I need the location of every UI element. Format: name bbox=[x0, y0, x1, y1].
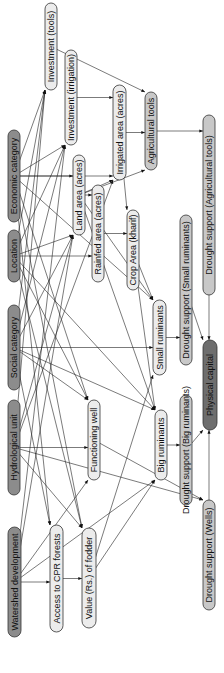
arrowhead-icon bbox=[84, 446, 88, 449]
arrowhead-icon bbox=[200, 336, 203, 340]
node-label: Land area (acres) bbox=[74, 159, 84, 230]
arrowhead-icon bbox=[78, 577, 82, 580]
node-fodder[interactable]: Value (Rs.) of fodder bbox=[82, 528, 96, 628]
node-label: Physical capital bbox=[205, 354, 215, 416]
arrowhead-icon bbox=[207, 336, 210, 340]
arrowhead-icon bbox=[141, 170, 145, 173]
node-label: Irrigated area (acres) bbox=[115, 90, 125, 174]
node-label: Economic category bbox=[9, 137, 19, 214]
node-location[interactable]: Location bbox=[8, 230, 20, 282]
node-label: Big ruminants bbox=[156, 417, 166, 473]
node-well[interactable]: Functioning well bbox=[88, 400, 100, 480]
node-label: Functioning well bbox=[89, 408, 99, 473]
node-label: Social category bbox=[9, 316, 19, 378]
arrowhead-icon bbox=[109, 96, 113, 99]
arrowhead-icon bbox=[109, 174, 113, 177]
nodes-layer: Economic categoryLocationSocial category… bbox=[8, 3, 217, 637]
arrowhead-icon bbox=[199, 129, 203, 132]
node-land[interactable]: Land area (acres) bbox=[73, 155, 85, 235]
node-label: Watershed development bbox=[10, 533, 20, 631]
node-hydro[interactable]: Hydrological unit bbox=[8, 400, 20, 495]
node-label: Drought support (Agricultural tools) bbox=[204, 135, 214, 275]
node-label: Agricultural tools bbox=[146, 97, 156, 164]
edge-watershed-to-land bbox=[15, 235, 74, 582]
arrowhead-icon bbox=[176, 443, 180, 446]
arrowhead-icon bbox=[149, 346, 153, 349]
node-inv_tools[interactable]: Investment (tools) bbox=[45, 3, 57, 90]
dependency-graph: Economic categoryLocationSocial category… bbox=[0, 0, 224, 673]
arrowhead-icon bbox=[207, 430, 210, 434]
node-label: Drought support (Wells) bbox=[204, 508, 214, 603]
node-small[interactable]: Small ruminants bbox=[153, 300, 166, 375]
node-label: Investment (tools) bbox=[46, 11, 56, 83]
node-rainfed[interactable]: Rainfed area (acres) bbox=[92, 185, 104, 282]
node-agtools[interactable]: Agricultural tools bbox=[145, 92, 157, 170]
arrowhead-icon bbox=[88, 193, 92, 196]
edge-location-to-land bbox=[14, 235, 73, 256]
node-watershed[interactable]: Watershed development bbox=[8, 527, 21, 637]
edge-social-to-inv_irr bbox=[14, 145, 65, 348]
edge-hydro-to-ds_wells bbox=[14, 448, 203, 501]
node-ds_wells[interactable]: Drought support (Wells) bbox=[203, 500, 215, 610]
edge-land-to-small bbox=[79, 195, 153, 300]
node-ds_big[interactable]: Drought support (Big ruminants) bbox=[180, 386, 192, 514]
edge-location-to-inv_irr bbox=[14, 145, 65, 256]
node-label: Value (Rs.) of fodder bbox=[84, 537, 94, 619]
node-crop[interactable]: Crop Area (kharif) bbox=[127, 210, 139, 290]
node-label: Drought support (Big ruminants) bbox=[181, 386, 191, 514]
edge-fodder-to-big bbox=[89, 480, 155, 578]
arrowhead-icon bbox=[85, 480, 88, 484]
node-label: Investment (irrigation) bbox=[66, 54, 76, 141]
edge-social-to-well bbox=[14, 348, 88, 401]
node-label: Crop Area (kharif) bbox=[128, 214, 138, 285]
edge-economic-to-inv_irr bbox=[14, 145, 65, 176]
arrowhead-icon bbox=[176, 336, 180, 339]
edge-watershed-to-inv_irr bbox=[15, 145, 66, 582]
node-label: Location bbox=[9, 239, 19, 273]
edge-location-to-fodder bbox=[14, 256, 82, 528]
node-label: Access to CPR forests bbox=[52, 533, 62, 624]
node-cpr[interactable]: Access to CPR forests bbox=[50, 525, 63, 632]
edge-land-to-agtools bbox=[79, 170, 145, 195]
node-ds_tools[interactable]: Drought support (Agricultural tools) bbox=[203, 115, 215, 295]
node-physical[interactable]: Physical capital bbox=[203, 340, 217, 430]
edge-land-to-big bbox=[79, 195, 155, 410]
node-irrigated[interactable]: Irrigated area (acres) bbox=[113, 85, 126, 180]
arrowhead-icon bbox=[123, 232, 127, 235]
node-label: Drought support (Small ruminants) bbox=[181, 221, 191, 359]
node-social[interactable]: Social category bbox=[8, 305, 20, 390]
arrowhead-icon bbox=[141, 131, 145, 134]
arrowhead-icon bbox=[88, 254, 92, 257]
edge-hydro-to-land bbox=[14, 235, 73, 448]
node-label: Hydrological unit bbox=[9, 414, 19, 481]
node-label: Rainfed area (acres) bbox=[93, 192, 103, 274]
node-economic[interactable]: Economic category bbox=[8, 130, 20, 222]
node-ds_small[interactable]: Drought support (Small ruminants) bbox=[180, 215, 192, 365]
node-inv_irr[interactable]: Investment (irrigation) bbox=[65, 50, 77, 145]
arrowhead-icon bbox=[48, 521, 51, 525]
arrowhead-icon bbox=[46, 580, 50, 583]
node-big[interactable]: Big ruminants bbox=[155, 410, 167, 480]
node-label: Small ruminants bbox=[155, 305, 165, 370]
